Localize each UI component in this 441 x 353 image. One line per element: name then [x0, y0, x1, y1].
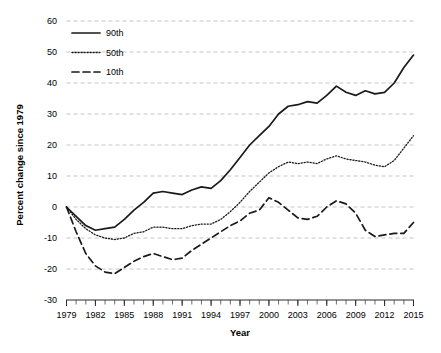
x-tick-label: 1985 — [114, 310, 134, 320]
legend-label-50th: 50th — [106, 48, 124, 58]
legend-label-10th: 10th — [106, 67, 124, 77]
x-tick-label: 1979 — [56, 310, 76, 320]
legend-label-90th: 90th — [106, 28, 124, 38]
y-tick-label: 20 — [47, 140, 57, 150]
chart-container: 6050403020100-10-20-30 19791982198519881… — [0, 0, 441, 353]
y-tick-label: -20 — [44, 264, 57, 274]
x-tick-label: 1994 — [201, 310, 221, 320]
y-tick-label: 30 — [47, 109, 57, 119]
x-tick-label: 2012 — [375, 310, 395, 320]
y-tick-label: 10 — [47, 171, 57, 181]
x-tick-label: 1988 — [143, 310, 163, 320]
y-tick-label: -10 — [44, 233, 57, 243]
x-tick-label: 1991 — [172, 310, 192, 320]
y-tick-label: 40 — [47, 78, 57, 88]
y-axis-title: Percent change since 1979 — [14, 104, 25, 225]
x-axis-title: Year — [230, 327, 250, 338]
percent-change-line-chart: 6050403020100-10-20-30 19791982198519881… — [0, 0, 441, 353]
x-tick-label: 2003 — [288, 310, 308, 320]
y-tick-label: 60 — [47, 16, 57, 26]
y-tick-label: 0 — [52, 202, 57, 212]
y-tick-label: 50 — [47, 47, 57, 57]
y-tick-label: -30 — [44, 295, 57, 305]
x-tick-label: 1982 — [85, 310, 105, 320]
x-tick-label: 2015 — [403, 310, 423, 320]
x-tick-label: 1997 — [230, 310, 250, 320]
x-tick-label: 2009 — [346, 310, 366, 320]
x-tick-label: 2000 — [259, 310, 279, 320]
x-tick-label: 2006 — [317, 310, 337, 320]
